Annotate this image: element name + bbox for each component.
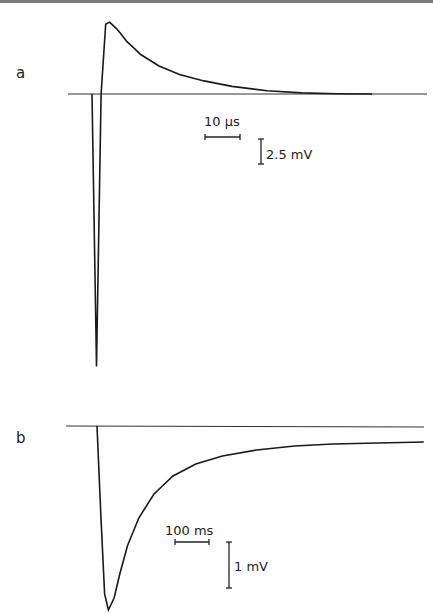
panel-b: b 100 ms 1 mV: [16, 426, 424, 610]
panel-a-label: a: [16, 64, 25, 82]
panel-a-trace: [92, 22, 372, 366]
figure: a 10 µs 2.5 mV b 100 ms: [0, 0, 433, 614]
panel-a-voltage-scale-label: 2.5 mV: [266, 147, 312, 162]
panel-a-time-scale-bar: [205, 134, 240, 140]
panel-a-time-scale-label: 10 µs: [204, 114, 240, 129]
panel-a-voltage-scale-bar: [258, 139, 264, 164]
panel-b-voltage-scale-bar: [226, 542, 232, 588]
panel-b-voltage-scale-label: 1 mV: [234, 559, 268, 574]
panel-b-time-scale-label: 100 ms: [165, 523, 214, 538]
panel-b-time-scale-bar: [175, 539, 209, 545]
panel-b-trace: [97, 426, 424, 610]
panel-b-baseline: [66, 426, 424, 427]
panel-b-label: b: [16, 429, 26, 447]
panel-a: a 10 µs 2.5 mV: [16, 22, 427, 366]
